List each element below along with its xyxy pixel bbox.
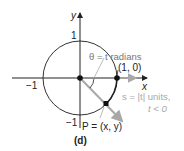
angle-label: θ = t radians bbox=[89, 51, 142, 62]
caption: (d) bbox=[74, 135, 87, 146]
point-P-label: P = (x, y) bbox=[82, 121, 122, 132]
point-1-0 bbox=[114, 75, 120, 81]
point-10-label: (1, 0) bbox=[118, 62, 141, 73]
unit-circle-diagram: y 1 −1 −1 x θ = t radians (1, 0) s = |t|… bbox=[0, 0, 184, 151]
arc-s bbox=[106, 78, 117, 104]
origin-point bbox=[77, 75, 83, 81]
arc-length-label-1: s = |t| units, bbox=[122, 91, 171, 102]
x-tick-neg1: −1 bbox=[26, 80, 38, 91]
point-P bbox=[104, 101, 109, 106]
y-axis-label: y bbox=[70, 10, 77, 21]
y-tick-1: 1 bbox=[71, 30, 77, 41]
y-tick-neg1: −1 bbox=[66, 117, 78, 128]
arc-length-label-2: t < 0 bbox=[148, 103, 167, 114]
